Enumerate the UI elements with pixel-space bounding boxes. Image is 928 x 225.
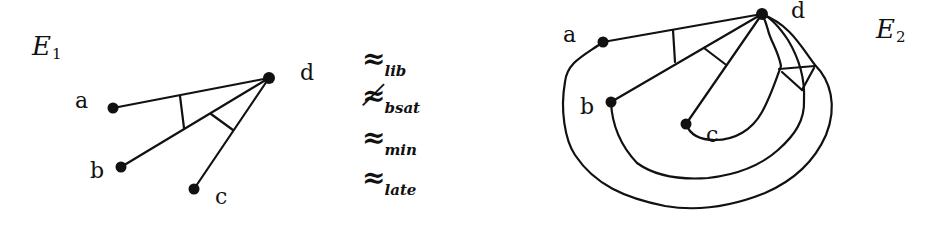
- e2-node-d-dot: [756, 8, 768, 20]
- e2-node-c-dot: [681, 119, 692, 130]
- approx-icon: ≈: [362, 161, 385, 194]
- e1-label-c: c: [215, 186, 227, 208]
- e1-title: E1: [32, 33, 62, 62]
- e2-title: E2: [876, 16, 906, 45]
- relation-bsat: ≉bsat: [362, 82, 420, 116]
- e2-title-name: E: [876, 14, 895, 44]
- e2-label-c: c: [706, 124, 718, 146]
- e1-edges: [113, 78, 269, 189]
- e2-label-d: d: [791, 0, 805, 22]
- e1-title-name: E: [32, 31, 51, 61]
- e1-node-a-dot: [108, 103, 119, 114]
- e2-curve-marker-horizontal: [779, 66, 815, 69]
- relation-min: ≈min: [362, 124, 417, 158]
- approx-icon: ≈: [362, 42, 385, 75]
- relation-bsat-subscript: bsat: [384, 99, 420, 117]
- e1-title-index: 1: [52, 45, 62, 63]
- e2-curve-marker-left-diag: [782, 72, 802, 90]
- relation-min-subscript: min: [384, 141, 416, 159]
- relation-late: ≈late: [362, 164, 416, 198]
- e2-edge-c-d: [686, 14, 762, 124]
- e2-label-b: b: [580, 96, 594, 118]
- e1-angle-marker-bc: [211, 114, 233, 130]
- e1-edge-c-d: [194, 78, 269, 189]
- approx-icon: ≈: [362, 121, 385, 154]
- e2-node-b-dot: [606, 97, 617, 108]
- e2-node-a-dot: [598, 37, 609, 48]
- e2-label-a: a: [563, 24, 576, 46]
- e1-node-c-dot: [189, 184, 200, 195]
- e2-curve-b-d: [611, 14, 804, 178]
- not-approx-icon: ≉: [362, 79, 385, 112]
- relation-lib: ≈lib: [362, 45, 406, 79]
- e1-angle-marker-ab: [180, 96, 184, 128]
- e2-title-index: 2: [896, 28, 906, 46]
- e1-label-d: d: [300, 62, 314, 84]
- e1-label-b: b: [90, 160, 104, 182]
- diagram-canvas: [0, 0, 928, 225]
- e2-angle-marker-ab: [673, 30, 675, 62]
- relation-lib-subscript: lib: [384, 62, 406, 80]
- e1-node-d-dot: [263, 72, 275, 84]
- e2-curve-c-d: [686, 14, 781, 140]
- relation-late-subscript: late: [384, 181, 416, 199]
- e1-label-a: a: [75, 90, 88, 112]
- e2-angle-marker-bc: [704, 48, 725, 64]
- e1-node-b-dot: [116, 162, 127, 173]
